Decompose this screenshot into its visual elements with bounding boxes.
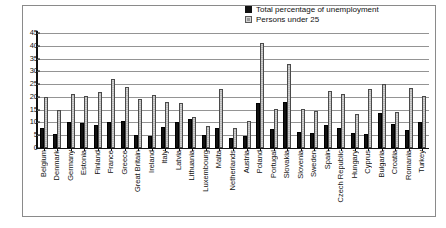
bar-group: [186, 33, 200, 148]
bar-group: [64, 33, 78, 148]
x-label-malta: Malta: [215, 150, 223, 168]
x-label-turkey: Turkey: [418, 150, 426, 173]
bar-group: [172, 33, 186, 148]
x-label-cyprus: Cyprus: [364, 150, 372, 174]
bar-group: [267, 33, 281, 148]
x-label-hungary: Hungary: [351, 150, 359, 178]
x-label-belgium: Belgium: [40, 150, 48, 177]
bar-under25-estonia: [84, 96, 88, 148]
x-label-czech-republic: Czech Republic: [337, 150, 345, 203]
y-tick-mark-40: [37, 45, 40, 46]
bar-under25-portugal: [274, 109, 278, 148]
y-tick-mark-5: [37, 135, 40, 136]
x-label-lithuania: Lithuania: [188, 150, 196, 180]
x-label-greece: Greece: [121, 150, 129, 175]
bar-under25-lithuania: [192, 117, 196, 148]
bar-under25-turkey: [422, 96, 426, 148]
bar-group: [334, 33, 348, 148]
legend-item-under25: Persons under 25: [245, 15, 379, 24]
x-label-romania: Romania: [405, 150, 413, 180]
bar-group: [51, 33, 65, 148]
bar-group: [118, 33, 132, 148]
bar-under25-france: [111, 79, 115, 148]
bar-under25-finland: [98, 92, 102, 148]
bar-under25-slovenia: [301, 109, 305, 148]
bar-under25-hungary: [355, 114, 359, 149]
x-label-ireland: Ireland: [148, 150, 156, 173]
legend-item-total: Total percentage of unemployment: [245, 5, 379, 14]
x-label-poland: Poland: [256, 150, 264, 173]
bar-under25-croatia: [395, 112, 399, 148]
bar-under25-great-britain: [138, 99, 142, 148]
bar-group: [321, 33, 335, 148]
bar-group: [402, 33, 416, 148]
x-label-italy: Italy: [161, 150, 169, 164]
bar-group: [375, 33, 389, 148]
x-axis-category-labels: BelgiumDenmarkGermanyEstoniaFinlandFranc…: [37, 150, 429, 226]
y-tick-mark-35: [37, 58, 40, 59]
bar-under25-bulgaria: [382, 84, 386, 148]
bar-under25-latvia: [179, 103, 183, 148]
bar-group: [37, 33, 51, 148]
bar-group: [361, 33, 375, 148]
bar-under25-denmark: [57, 110, 61, 148]
bar-under25-germany: [71, 94, 75, 148]
gray-square-icon: [245, 16, 252, 23]
bar-group: [226, 33, 240, 148]
bar-under25-spain: [328, 91, 332, 148]
bar-under25-ireland: [152, 95, 156, 148]
x-label-estonia: Estonia: [80, 150, 88, 175]
bar-under25-malta: [219, 89, 223, 148]
chart-legend: Total percentage of unemployment Persons…: [245, 5, 379, 24]
x-label-sweden: Sweden: [310, 150, 318, 177]
x-label-portugal: Portugal: [270, 150, 278, 178]
bar-under25-romania: [409, 88, 413, 148]
x-label-denmark: Denmark: [53, 150, 61, 180]
bar-group: [199, 33, 213, 148]
bar-group: [415, 33, 429, 148]
bar-group: [132, 33, 146, 148]
bar-group: [307, 33, 321, 148]
bar-under25-czech-republic: [341, 94, 345, 148]
x-label-finland: Finland: [94, 150, 102, 175]
x-label-croatia: Croatia: [391, 150, 399, 174]
bar-under25-netherlands: [233, 128, 237, 148]
x-label-austria: Austria: [243, 150, 251, 173]
bar-group: [145, 33, 159, 148]
bar-group: [280, 33, 294, 148]
x-label-spain: Spain: [324, 150, 332, 169]
bar-under25-slovakia: [287, 64, 291, 148]
y-tick-mark-45: [37, 33, 40, 34]
bar-group: [159, 33, 173, 148]
x-label-bulgaria: Bulgaria: [378, 150, 386, 178]
bar-under25-sweden: [314, 111, 318, 148]
bar-groups: [37, 33, 429, 148]
bar-under25-luxembourg: [206, 126, 210, 148]
y-tick-mark-20: [37, 96, 40, 97]
bar-group: [294, 33, 308, 148]
bar-under25-italy: [165, 102, 169, 149]
x-label-france: France: [107, 150, 115, 173]
legend-label-under25: Persons under 25: [256, 15, 319, 24]
bar-group: [213, 33, 227, 148]
x-label-netherlands: Netherlands: [229, 150, 237, 190]
x-label-luxembourg: Luxembourg: [202, 150, 210, 192]
bar-under25-cyprus: [368, 89, 372, 148]
x-label-great-britain: Great Britain: [134, 150, 142, 192]
bar-group: [240, 33, 254, 148]
bar-under25-poland: [260, 43, 264, 148]
unemployment-bar-chart: Total percentage of unemployment Persons…: [0, 0, 446, 228]
bar-group: [78, 33, 92, 148]
y-tick-mark-0: [37, 148, 40, 149]
bar-group: [348, 33, 362, 148]
y-tick-mark-15: [37, 109, 40, 110]
bar-under25-austria: [247, 121, 251, 148]
y-tick-mark-10: [37, 122, 40, 123]
x-label-latvia: Latvia: [175, 150, 183, 170]
bar-under25-greece: [125, 87, 129, 148]
y-tick-mark-25: [37, 84, 40, 85]
x-label-slovenia: Slovenia: [297, 150, 305, 179]
bar-under25-belgium: [44, 97, 48, 148]
x-label-germany: Germany: [67, 150, 75, 181]
bar-group: [105, 33, 119, 148]
